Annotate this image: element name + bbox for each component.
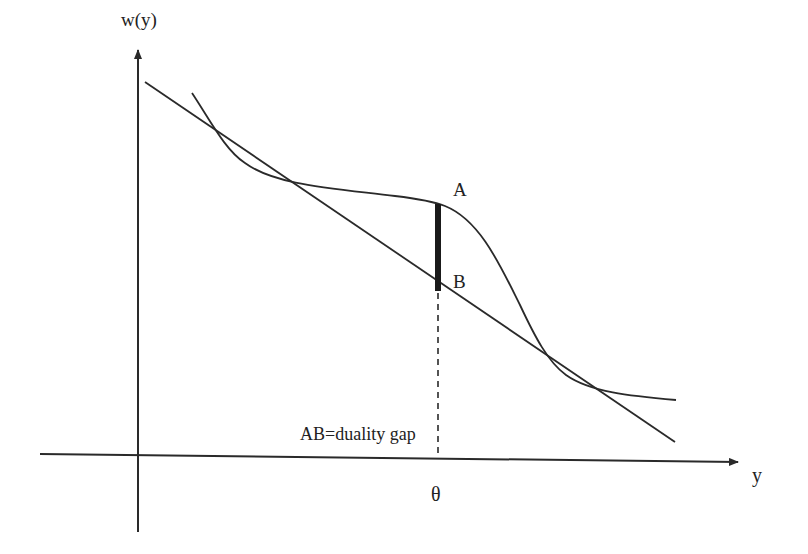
x-axis-label: y: [752, 464, 762, 487]
duality-gap-diagram: w(y) A B AB=duality gap θ y: [0, 0, 808, 554]
duality-gap-annotation: AB=duality gap: [300, 424, 416, 444]
dual-function-curve: [192, 93, 676, 400]
point-a-label: A: [453, 179, 467, 200]
x-axis: [40, 454, 738, 462]
point-b-label: B: [453, 271, 466, 292]
y-axis-label: w(y): [121, 9, 157, 31]
theta-tick-label: θ: [431, 483, 441, 505]
